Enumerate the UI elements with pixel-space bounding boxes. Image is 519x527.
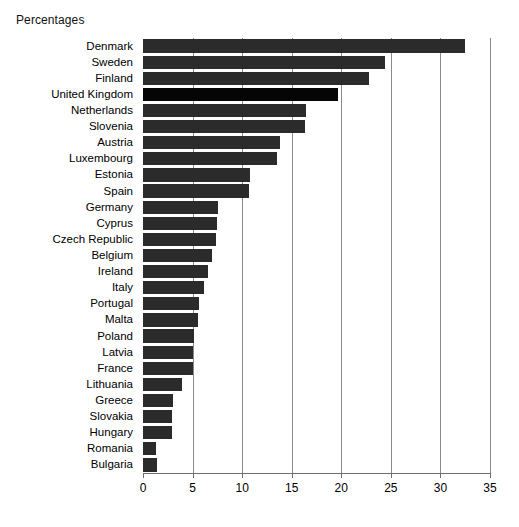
x-tick-30	[440, 473, 441, 478]
category-label-luxembourg: Luxembourg	[69, 152, 133, 164]
x-tick-20	[341, 473, 342, 478]
bar-row	[143, 409, 490, 425]
category-label-portugal: Portugal	[90, 297, 133, 309]
x-tick-25	[391, 473, 392, 478]
category-label-ireland: Ireland	[98, 265, 133, 277]
x-tick-label-35: 35	[483, 481, 496, 495]
bar-row	[143, 151, 490, 167]
bar-ireland	[143, 265, 208, 278]
bar-cyprus	[143, 217, 217, 230]
bar-czech-republic	[143, 233, 216, 246]
bar-row	[143, 312, 490, 328]
bar-row	[143, 102, 490, 118]
category-label-romania: Romania	[87, 442, 133, 454]
bar-bulgaria	[143, 458, 157, 471]
x-tick-label-25: 25	[384, 481, 397, 495]
bar-series	[143, 38, 490, 473]
bar-lithuania	[143, 378, 182, 391]
category-label-hungary: Hungary	[90, 426, 133, 438]
bar-austria	[143, 136, 280, 149]
category-axis-labels: DenmarkSwedenFinlandUnited KingdomNether…	[0, 38, 138, 473]
bar-row	[143, 360, 490, 376]
category-label-denmark: Denmark	[86, 40, 133, 52]
bar-row	[143, 38, 490, 54]
bar-row	[143, 441, 490, 457]
x-tick-0	[143, 473, 144, 478]
bar-finland	[143, 72, 369, 85]
x-tick-5	[193, 473, 194, 478]
bar-row	[143, 54, 490, 70]
bar-row	[143, 183, 490, 199]
bar-row	[143, 264, 490, 280]
bar-row	[143, 296, 490, 312]
category-label-lithuania: Lithuania	[86, 378, 133, 390]
x-tick-35	[490, 473, 491, 478]
bar-romania	[143, 442, 156, 455]
chart-title: Percentages	[16, 13, 84, 27]
bar-netherlands	[143, 104, 306, 117]
category-label-slovenia: Slovenia	[89, 120, 133, 132]
bar-row	[143, 280, 490, 296]
bar-belgium	[143, 249, 212, 262]
bar-row	[143, 135, 490, 151]
bar-latvia	[143, 346, 193, 359]
category-label-cyprus: Cyprus	[97, 217, 133, 229]
category-label-belgium: Belgium	[91, 249, 133, 261]
bar-united-kingdom	[143, 88, 338, 101]
x-tick-label-10: 10	[235, 481, 248, 495]
bar-malta	[143, 313, 198, 326]
x-tick-label-0: 0	[140, 481, 147, 495]
category-label-netherlands: Netherlands	[71, 104, 133, 116]
category-label-bulgaria: Bulgaria	[91, 458, 133, 470]
bar-row	[143, 215, 490, 231]
bar-hungary	[143, 426, 172, 439]
category-label-finland: Finland	[95, 72, 133, 84]
bar-row	[143, 344, 490, 360]
bar-row	[143, 376, 490, 392]
bar-row	[143, 199, 490, 215]
bar-row	[143, 392, 490, 408]
bar-row	[143, 328, 490, 344]
category-label-spain: Spain	[104, 185, 133, 197]
category-label-poland: Poland	[97, 330, 133, 342]
category-label-estonia: Estonia	[95, 168, 133, 180]
bar-sweden	[143, 56, 385, 69]
plot-area	[143, 38, 490, 473]
category-label-austria: Austria	[97, 136, 133, 148]
bar-row	[143, 70, 490, 86]
x-tick-10	[242, 473, 243, 478]
bar-france	[143, 362, 193, 375]
bar-portugal	[143, 297, 199, 310]
bar-slovakia	[143, 410, 172, 423]
bar-spain	[143, 184, 249, 197]
x-tick-label-20: 20	[335, 481, 348, 495]
category-label-latvia: Latvia	[102, 346, 133, 358]
category-label-sweden: Sweden	[91, 56, 133, 68]
bar-row	[143, 231, 490, 247]
bar-germany	[143, 201, 218, 214]
category-label-czech-republic: Czech Republic	[52, 233, 133, 245]
bar-greece	[143, 394, 173, 407]
x-tick-label-30: 30	[434, 481, 447, 495]
x-axis-line	[143, 473, 491, 474]
bar-row	[143, 457, 490, 473]
x-tick-label-5: 5	[189, 481, 196, 495]
bar-italy	[143, 281, 204, 294]
category-label-slovakia: Slovakia	[90, 410, 133, 422]
bar-row	[143, 167, 490, 183]
category-label-malta: Malta	[105, 313, 133, 325]
x-tick-15	[292, 473, 293, 478]
bar-row	[143, 425, 490, 441]
category-label-france: France	[97, 362, 133, 374]
bar-estonia	[143, 168, 250, 181]
x-tick-label-15: 15	[285, 481, 298, 495]
chart-figure: Percentages DenmarkSwedenFinlandUnited K…	[0, 0, 519, 527]
bar-row	[143, 119, 490, 135]
category-label-germany: Germany	[86, 201, 133, 213]
category-label-united-kingdom: United Kingdom	[51, 88, 133, 100]
bar-row	[143, 86, 490, 102]
bar-denmark	[143, 39, 465, 52]
bar-slovenia	[143, 120, 305, 133]
category-label-italy: Italy	[112, 281, 133, 293]
gridline-35	[490, 38, 491, 473]
